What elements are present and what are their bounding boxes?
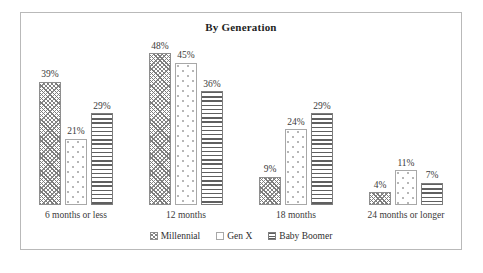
bar-baby-boomer-24-months-or-longer[interactable] bbox=[421, 183, 443, 205]
bar-millennial-24-months-or-longer[interactable] bbox=[369, 192, 391, 205]
bar-slot-baby-boomer: 7% bbox=[421, 31, 443, 205]
bar-gen-x-12-months[interactable] bbox=[175, 63, 197, 205]
bar-slot-gen-x: 24% bbox=[285, 31, 307, 205]
value-label-gen-x-6-months-or-less: 21% bbox=[67, 127, 84, 137]
bar-slot-millennial: 9% bbox=[259, 31, 281, 205]
bar-group-12-months: 48%45%36%12 months bbox=[147, 31, 225, 205]
bar-group-6-months-or-less: 39%21%29%6 months or less bbox=[37, 31, 115, 205]
bar-slot-gen-x: 11% bbox=[395, 31, 417, 205]
legend-swatch-millennial-icon bbox=[150, 232, 158, 240]
legend-swatch-genx-icon bbox=[216, 232, 224, 240]
category-label-12-months: 12 months bbox=[147, 210, 225, 220]
bar-gen-x-6-months-or-less[interactable] bbox=[65, 139, 87, 205]
bar-slot-gen-x: 45% bbox=[175, 31, 197, 205]
bar-slot-gen-x: 21% bbox=[65, 31, 87, 205]
bar-gen-x-18-months[interactable] bbox=[285, 129, 307, 205]
bar-baby-boomer-18-months[interactable] bbox=[311, 113, 333, 205]
value-label-baby-boomer-12-months: 36% bbox=[203, 80, 220, 90]
legend-label-baby-boomer: Baby Boomer bbox=[279, 231, 332, 241]
category-label-18-months: 18 months bbox=[257, 210, 335, 220]
value-label-baby-boomer-24-months-or-longer: 7% bbox=[426, 171, 439, 181]
legend-item-millennial[interactable]: Millennial bbox=[150, 231, 201, 241]
legend-label-genx: Gen X bbox=[227, 231, 252, 241]
bar-millennial-18-months[interactable] bbox=[259, 177, 281, 205]
legend-item-baby-boomer[interactable]: Baby Boomer bbox=[268, 231, 332, 241]
bar-slot-millennial: 48% bbox=[149, 31, 171, 205]
bar-slot-baby-boomer: 36% bbox=[201, 31, 223, 205]
bar-millennial-6-months-or-less[interactable] bbox=[39, 82, 61, 205]
bar-slot-millennial: 39% bbox=[39, 31, 61, 205]
bar-gen-x-24-months-or-longer[interactable] bbox=[395, 170, 417, 205]
chart-frame: By Generation 39%21%29%6 months or less4… bbox=[20, 12, 462, 250]
plot-area: 39%21%29%6 months or less48%45%36%12 mon… bbox=[21, 31, 461, 205]
bar-group-24-months-or-longer: 4%11%7%24 months or longer bbox=[367, 31, 445, 205]
value-label-millennial-18-months: 9% bbox=[264, 165, 277, 175]
bar-slot-baby-boomer: 29% bbox=[311, 31, 333, 205]
bar-baby-boomer-6-months-or-less[interactable] bbox=[91, 113, 113, 205]
category-label-6-months-or-less: 6 months or less bbox=[37, 210, 115, 220]
bar-group-18-months: 9%24%29%18 months bbox=[257, 31, 335, 205]
value-label-gen-x-12-months: 45% bbox=[177, 51, 194, 61]
bar-slot-baby-boomer: 29% bbox=[91, 31, 113, 205]
bar-baby-boomer-12-months[interactable] bbox=[201, 91, 223, 205]
value-label-gen-x-18-months: 24% bbox=[287, 118, 304, 128]
bar-slot-millennial: 4% bbox=[369, 31, 391, 205]
chart-legend: Millennial Gen X Baby Boomer bbox=[21, 231, 461, 241]
legend-swatch-baby-boomer-icon bbox=[268, 232, 276, 240]
bar-millennial-12-months[interactable] bbox=[149, 53, 171, 205]
value-label-millennial-6-months-or-less: 39% bbox=[41, 70, 58, 80]
value-label-baby-boomer-18-months: 29% bbox=[313, 102, 330, 112]
category-label-24-months-or-longer: 24 months or longer bbox=[367, 210, 445, 220]
legend-item-genx[interactable]: Gen X bbox=[216, 231, 252, 241]
value-label-millennial-24-months-or-longer: 4% bbox=[374, 181, 387, 191]
legend-label-millennial: Millennial bbox=[161, 231, 201, 241]
value-label-millennial-12-months: 48% bbox=[151, 42, 168, 52]
value-label-gen-x-24-months-or-longer: 11% bbox=[397, 159, 414, 169]
value-label-baby-boomer-6-months-or-less: 29% bbox=[93, 102, 110, 112]
